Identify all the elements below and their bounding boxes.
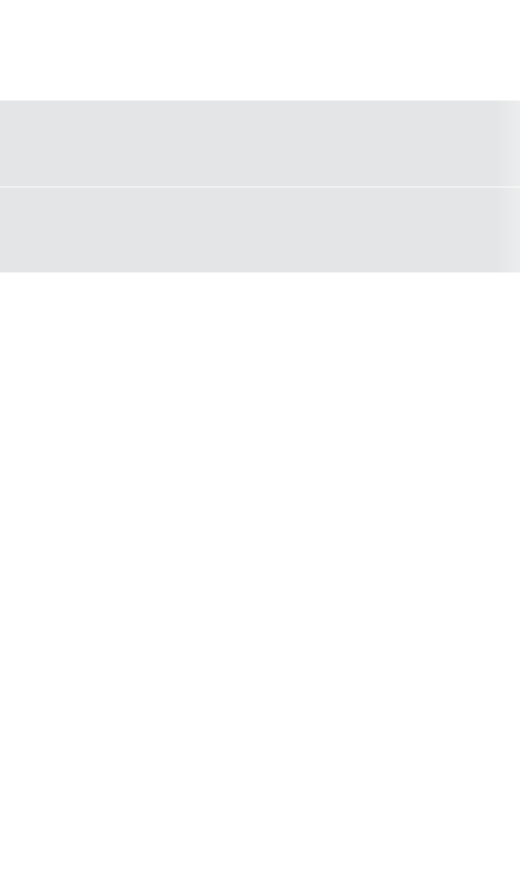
- placeholder-band: [0, 100, 520, 273]
- app-screen: [0, 0, 520, 886]
- skeleton-row: [0, 187, 520, 273]
- skeleton-row-label: [0, 100, 1, 101]
- empty-content-region: [0, 273, 520, 886]
- empty-state-message: [0, 273, 1, 274]
- skeleton-row: [0, 100, 520, 186]
- top-spacer-label: [0, 0, 1, 1]
- skeleton-row-label: [0, 187, 1, 188]
- top-spacer: [0, 0, 520, 100]
